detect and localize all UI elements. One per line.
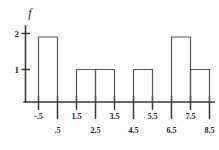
histogram-bar — [134, 70, 153, 103]
histogram-bar — [191, 70, 210, 103]
x-tick-label-7: 6.5 — [166, 126, 176, 135]
histogram-bar — [77, 70, 96, 103]
chart-canvas: f 2 1 -.5 .5 1.5 2.5 — [0, 0, 219, 150]
x-tick-label-9: 8.5 — [204, 126, 214, 135]
y-tick-group: 2 1 — [15, 29, 31, 75]
histogram-chart: f 2 1 -.5 .5 1.5 2.5 — [0, 0, 219, 150]
x-tick-label-2: 1.5 — [71, 112, 81, 121]
x-tick-label-4: 3.5 — [109, 112, 119, 121]
histogram-bar — [172, 37, 191, 102]
x-tick-label-group: -.5 .5 1.5 2.5 3.5 4.5 5.5 6.5 7.5 8.5 — [34, 112, 215, 135]
y-axis-label: f — [28, 6, 33, 20]
histogram-bar — [39, 37, 58, 102]
x-tick-label-5: 4.5 — [128, 126, 138, 135]
x-tick-label-0: -.5 — [34, 112, 43, 121]
y-tick-label-1: 1 — [15, 65, 20, 75]
x-tick-label-1: .5 — [54, 126, 60, 135]
bar-group — [39, 37, 210, 102]
x-tick-group — [39, 96, 210, 119]
x-tick-label-6: 5.5 — [147, 112, 157, 121]
x-tick-label-3: 2.5 — [90, 126, 100, 135]
y-tick-label-2: 2 — [15, 29, 20, 39]
x-tick-label-8: 7.5 — [185, 112, 195, 121]
histogram-bar — [96, 70, 115, 103]
